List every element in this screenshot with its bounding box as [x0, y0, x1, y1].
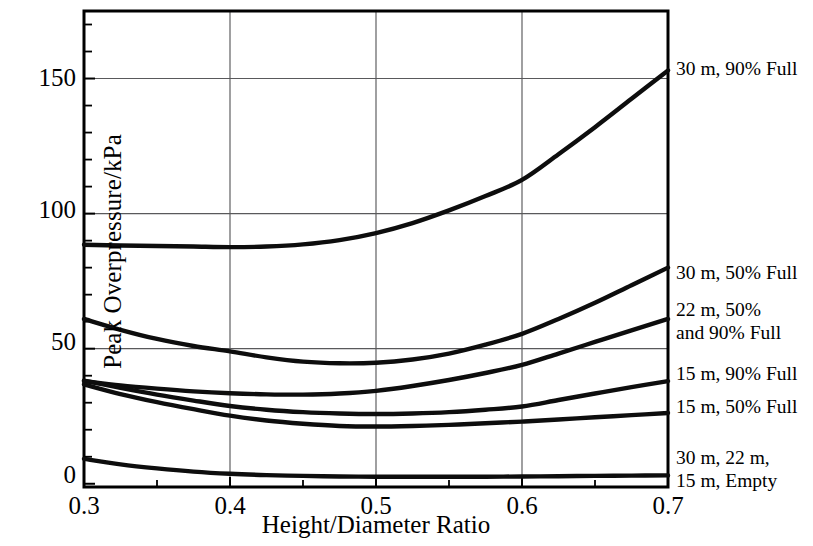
series-annotation-22m-50-and-90pct-full-line1: 22 m, 50%	[676, 299, 761, 320]
y-axis-title: Peak Overpressure/kPa	[100, 42, 125, 462]
y-axis-ticks	[84, 25, 95, 484]
series-annotation-15m-90pct-full: 15 m, 90% Full	[676, 363, 797, 384]
series-annotation-30m-50pct-full: 30 m, 50% Full	[676, 262, 797, 283]
y-tick-label-50: 50	[51, 329, 76, 354]
series-annotation-22m-50-and-90pct-full-line2: and 90% Full	[676, 322, 781, 343]
y-tick-label-0: 0	[64, 462, 77, 487]
series-annotation-empty-line2: 15 m, Empty	[676, 470, 777, 491]
series-annotation-30m-90pct-full: 30 m, 90% Full	[676, 58, 797, 79]
y-tick-label-100: 100	[39, 197, 77, 222]
x-tick-label-0-5: 0.5	[331, 493, 421, 518]
series-annotation-empty-line1: 30 m, 22 m,	[676, 447, 770, 468]
x-tick-label-0-7: 0.7	[623, 493, 713, 518]
x-tick-label-0-3: 0.3	[39, 493, 129, 518]
y-tick-label-150: 150	[39, 65, 77, 90]
x-tick-label-0-6: 0.6	[477, 493, 567, 518]
x-tick-label-0-4: 0.4	[185, 493, 275, 518]
series-annotation-15m-50pct-full: 15 m, 50% Full	[676, 396, 797, 417]
peak-overpressure-chart-figure: Peak Overpressure/kPa Height/Diameter Ra…	[0, 0, 813, 546]
